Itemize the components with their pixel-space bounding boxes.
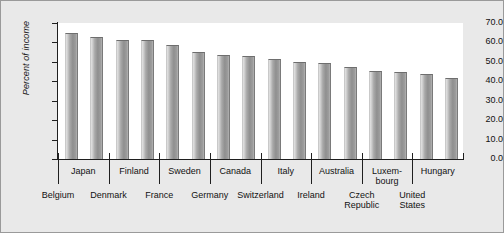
y-axis-tick-label: 60.0 bbox=[457, 36, 503, 46]
bar bbox=[268, 59, 281, 159]
bar bbox=[116, 40, 129, 160]
bar bbox=[192, 52, 205, 159]
bar bbox=[318, 63, 331, 159]
x-axis-tick bbox=[362, 153, 363, 160]
y-axis-tick-label: 70.0 bbox=[457, 17, 503, 27]
x-axis-tick bbox=[311, 153, 312, 160]
y-axis-tick-label: 30.0 bbox=[457, 95, 503, 105]
bar bbox=[65, 33, 78, 159]
bar bbox=[141, 40, 154, 159]
bar bbox=[344, 67, 357, 159]
bar bbox=[90, 37, 103, 159]
bar bbox=[293, 62, 306, 159]
bar bbox=[394, 72, 407, 159]
x-axis-tick bbox=[109, 153, 110, 160]
bar bbox=[242, 56, 255, 159]
y-axis-tick-label: 40.0 bbox=[457, 75, 503, 85]
bar bbox=[420, 74, 433, 160]
chart-figure: Percent of income 70.060.050.040.030.020… bbox=[0, 0, 504, 233]
x-axis-tick bbox=[159, 153, 160, 160]
x-axis-label: Hungary bbox=[398, 166, 478, 176]
x-axis-label: UnitedStates bbox=[372, 190, 452, 210]
x-axis-tick bbox=[463, 153, 464, 160]
bar bbox=[217, 55, 230, 159]
bar bbox=[166, 45, 179, 159]
bar bbox=[369, 71, 382, 159]
y-axis-title: Percent of income bbox=[21, 0, 31, 123]
bar bbox=[445, 78, 458, 159]
y-axis-tick-label: 10.0 bbox=[457, 134, 503, 144]
x-axis-tick bbox=[210, 153, 211, 160]
x-axis-tick bbox=[58, 153, 59, 160]
x-axis-tick bbox=[261, 153, 262, 160]
x-axis-tick bbox=[412, 153, 413, 160]
plot-area bbox=[58, 23, 463, 159]
y-axis-tick-label: 50.0 bbox=[457, 56, 503, 66]
y-axis-tick-label: 20.0 bbox=[457, 114, 503, 124]
